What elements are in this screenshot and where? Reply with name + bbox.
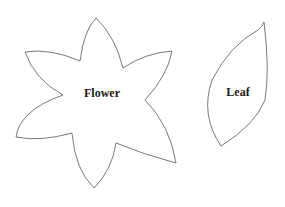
leaf-label: Leaf <box>226 85 249 100</box>
flower-shape <box>16 18 176 188</box>
shapes-canvas <box>0 0 285 207</box>
flower-label: Flower <box>84 86 120 101</box>
